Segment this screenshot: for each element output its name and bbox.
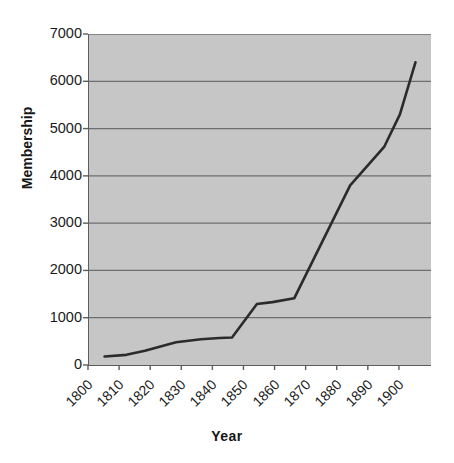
x-axis-tick-labels: 1800181018201830184018501860187018801890… — [0, 0, 454, 463]
x-axis-title: Year — [0, 428, 454, 444]
line-chart: Membership 01000200030004000500060007000… — [0, 0, 454, 463]
